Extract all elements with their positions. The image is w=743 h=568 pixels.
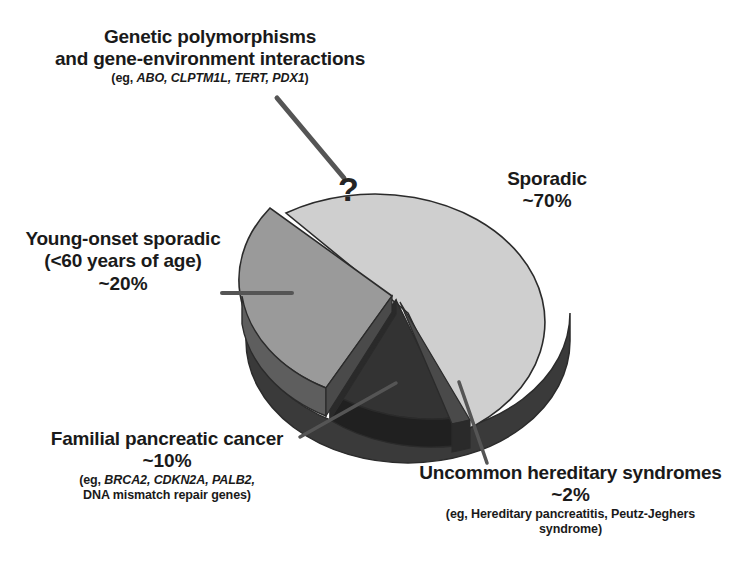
callout-uncommon-percent: ~2% <box>398 484 743 506</box>
leader-line-genetic <box>277 98 344 178</box>
wedge-uncommon-side <box>452 420 470 452</box>
callout-familial-genes-prefix: (eg, <box>79 473 104 487</box>
callout-sporadic-percent: ~70% <box>462 190 632 212</box>
callout-genetic-line1: Genetic polymorphisms <box>30 26 390 48</box>
question-mark-annotation: ? <box>338 170 359 209</box>
callout-genetic-genes-suffix: ) <box>305 71 309 85</box>
callout-familial-label: Familial pancreatic cancer <box>22 428 312 450</box>
callout-familial-genes-list: BRCA2, CDKN2A, PALB2, <box>104 473 254 487</box>
callout-sporadic-label: Sporadic <box>462 168 632 190</box>
callout-genetic-genes: (eg, ABO, CLPTM1L, TERT, PDX1) <box>30 71 390 86</box>
callout-young-line2: (<60 years of age) <box>8 250 238 272</box>
callout-genetic-line2: and gene-environment interactions <box>30 48 390 70</box>
callout-young-onset-sporadic: Young-onset sporadic (<60 years of age) … <box>8 228 238 295</box>
callout-sporadic: Sporadic ~70% <box>462 168 632 213</box>
callout-uncommon-sub-line1: (eg, Hereditary pancreatitis, Peutz-Jegh… <box>398 507 743 522</box>
callout-young-percent: ~20% <box>8 273 238 295</box>
callout-genetic-polymorphisms: Genetic polymorphisms and gene-environme… <box>30 26 390 86</box>
callout-familial-pancreatic-cancer: Familial pancreatic cancer ~10% (eg, BRC… <box>22 428 312 502</box>
callout-uncommon-sub-line2: syndrome) <box>398 522 743 537</box>
callout-uncommon-label: Uncommon hereditary syndromes <box>398 462 743 484</box>
callout-familial-percent: ~10% <box>22 450 312 472</box>
pie-chart-figure: ? Genetic polymorphisms and gene-environ… <box>0 0 743 568</box>
callout-familial-genes-line1: (eg, BRCA2, CDKN2A, PALB2, <box>22 473 312 488</box>
callout-uncommon-hereditary-syndromes: Uncommon hereditary syndromes ~2% (eg, H… <box>398 462 743 536</box>
callout-young-line1: Young-onset sporadic <box>8 228 238 250</box>
callout-genetic-genes-list: ABO, CLPTM1L, TERT, PDX1 <box>137 71 305 85</box>
callout-genetic-genes-prefix: (eg, <box>111 71 136 85</box>
callout-familial-genes-line2: DNA mismatch repair genes) <box>22 488 312 503</box>
